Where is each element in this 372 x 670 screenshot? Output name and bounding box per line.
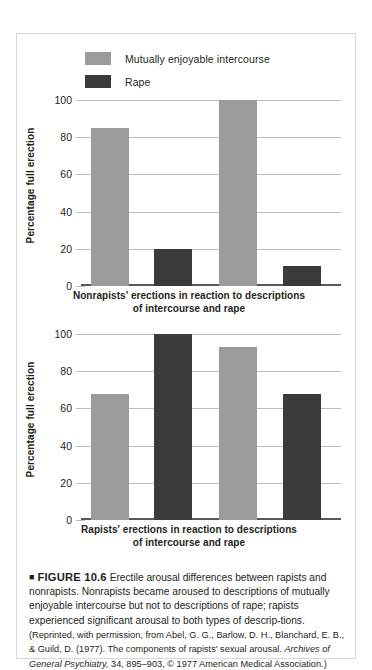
gridline <box>85 100 341 101</box>
y-axis-tick <box>76 100 85 101</box>
legend-swatch-icon-dark <box>85 75 111 88</box>
y-axis-tick <box>76 212 85 213</box>
legend-swatch-icon-light <box>85 52 111 65</box>
y-axis-tick-label: 20 <box>60 477 72 489</box>
y-axis-tick <box>76 286 85 287</box>
plot-area-top: 020406080100 <box>85 100 341 286</box>
bar <box>283 266 321 286</box>
y-axis-tick-label: 20 <box>60 243 72 255</box>
y-axis-tick <box>76 249 85 250</box>
y-axis-tick-label: 100 <box>54 328 72 340</box>
chart-legend: Mutually enjoyable intercourse Rape <box>85 49 325 95</box>
bar <box>91 394 129 520</box>
y-axis-tick-label: 60 <box>60 402 72 414</box>
caption-source-post: 34, 895–903, © 1977 American Medical Ass… <box>108 659 326 669</box>
y-axis-tick <box>76 371 85 372</box>
chart-rapists: Percentage full erection 020406080100 Ra… <box>17 326 357 564</box>
y-axis-tick-label: 80 <box>60 365 72 377</box>
y-axis-label-top: Percentage full erection <box>23 92 39 278</box>
figure-panel: Mutually enjoyable intercourse Rape Perc… <box>16 33 356 659</box>
legend-label-mutually-enjoyable-intercourse: Mutually enjoyable intercourse <box>125 53 270 65</box>
figure-caption: ■FIGURE 10.6 Erectile arousal difference… <box>29 570 347 670</box>
legend-item-mutually-enjoyable-intercourse: Mutually enjoyable intercourse <box>85 49 325 68</box>
y-axis-tick <box>76 520 85 521</box>
x-axis-label-bottom: Rapists' erections in reaction to descri… <box>57 524 321 549</box>
y-axis-tick <box>76 174 85 175</box>
y-axis-tick-label: 80 <box>60 131 72 143</box>
bar <box>283 394 321 520</box>
plot-area-bottom: 020406080100 <box>85 334 341 520</box>
y-axis-tick <box>76 137 85 138</box>
y-axis-tick-label: 100 <box>54 94 72 106</box>
caption-square-icon: ■ <box>29 572 34 582</box>
y-axis-label-bottom: Percentage full erection <box>23 326 39 512</box>
y-axis-tick <box>76 408 85 409</box>
chart-nonrapists: Percentage full erection 020406080100 No… <box>17 92 357 330</box>
y-axis-tick-label: 60 <box>60 168 72 180</box>
bar <box>154 249 192 286</box>
y-axis-tick-label: 40 <box>60 206 72 218</box>
x-axis-label-top: Nonrapists' erections in reaction to des… <box>57 290 321 315</box>
figure-number: FIGURE 10.6 <box>37 571 106 583</box>
bar <box>219 347 257 520</box>
legend-label-rape: Rape <box>125 76 151 88</box>
y-axis-tick <box>76 334 85 335</box>
y-axis-tick <box>76 446 85 447</box>
y-axis-tick <box>76 483 85 484</box>
gridline <box>85 371 341 372</box>
legend-item-rape: Rape <box>85 72 325 91</box>
bar <box>154 334 192 520</box>
bar <box>91 128 129 286</box>
y-axis-tick-label: 40 <box>60 440 72 452</box>
bar <box>219 100 257 286</box>
gridline <box>85 334 341 335</box>
